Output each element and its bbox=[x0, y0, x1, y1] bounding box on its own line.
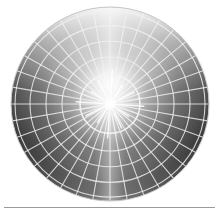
figure-stage: Shaded sphere with polar wireframe grid bbox=[0, 0, 219, 215]
sphere-body bbox=[11, 7, 209, 201]
specular-core bbox=[101, 95, 119, 113]
horizontal-separator bbox=[4, 207, 215, 208]
sphere-figure bbox=[0, 0, 219, 215]
